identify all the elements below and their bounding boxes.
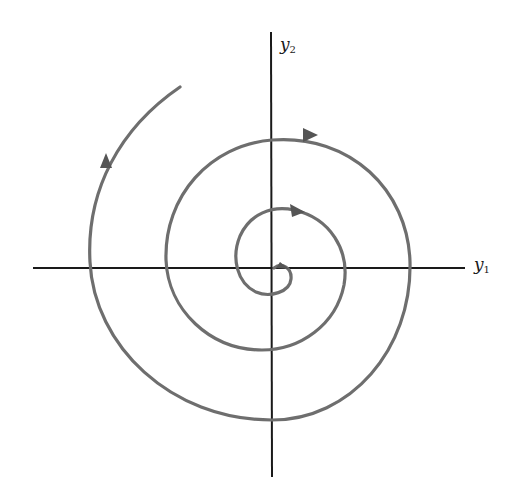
y1-axis-label: y1 [474,256,490,275]
y2-axis-label: y2 [280,36,296,55]
arrow-icon [276,262,289,269]
arrow-icon [303,128,318,142]
arrow-icon [100,153,112,168]
y1-label-var: y [474,254,484,274]
arrow-icon [290,204,305,217]
phase-plane-diagram: y2 y1 [0,0,518,495]
y2-axis [271,32,272,477]
y1-label-sub: 1 [484,264,490,275]
phase-plane-svg [0,0,518,495]
y2-label-var: y [280,34,290,54]
spiral-trajectory [90,87,410,420]
y2-label-sub: 2 [290,44,296,55]
